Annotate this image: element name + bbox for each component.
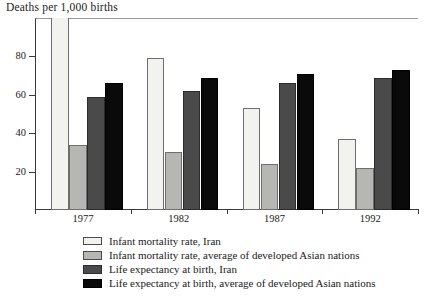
legend-label: Life expectancy at birth, average of dev… [109,278,376,289]
legend-label: Infant mortality rate, average of develo… [109,250,359,261]
chart-title: Deaths per 1,000 births [6,1,118,13]
legend-label: Life expectancy at birth, Iran [109,264,237,275]
bar [261,164,279,210]
bar [338,139,356,210]
bar [147,58,165,210]
legend-item: Infant mortality rate, average of develo… [83,248,376,262]
legend-swatch [83,279,102,288]
bar [87,97,105,210]
bar [392,70,410,210]
x-axis-label: 1982 [131,213,227,224]
x-axis-label: 1977 [35,213,131,224]
bar [105,83,123,210]
y-axis-label: 80 [0,51,26,61]
legend-item: Infant mortality rate, Iran [83,234,376,248]
x-axis-tick [418,209,419,214]
bar [69,145,87,210]
bar [51,18,69,210]
y-axis-label: 20 [0,167,26,177]
y-axis-label: 40 [0,128,26,138]
bars-layer [35,18,418,210]
legend-swatch [83,265,102,274]
bar [374,78,392,210]
x-axis-label: 1992 [322,213,418,224]
bar [356,168,374,210]
bar [279,83,297,210]
chart-legend: Infant mortality rate, IranInfant mortal… [83,234,376,291]
legend-label: Infant mortality rate, Iran [109,236,221,247]
bar [201,78,219,210]
bar [183,91,201,210]
legend-item: Life expectancy at birth, average of dev… [83,277,376,291]
bar [297,74,315,210]
legend-swatch [83,237,102,246]
y-axis-label: 60 [0,90,26,100]
x-axis-label: 1987 [227,213,323,224]
legend-swatch [83,251,102,260]
legend-item: Life expectancy at birth, Iran [83,262,376,276]
bar [243,108,261,210]
bar [165,152,183,210]
bar-chart: Deaths per 1,000 births 20406080 1977198… [0,0,428,297]
